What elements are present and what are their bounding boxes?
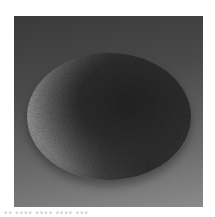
powder-mound xyxy=(27,53,191,180)
cropped-caption: ▪▪ ▪▪▪▪ ▪▪▪▪ ▪▪▪▪ ▪▪▪ xyxy=(4,209,214,217)
powder-pile-photo xyxy=(14,16,203,207)
grain-texture xyxy=(27,53,191,180)
